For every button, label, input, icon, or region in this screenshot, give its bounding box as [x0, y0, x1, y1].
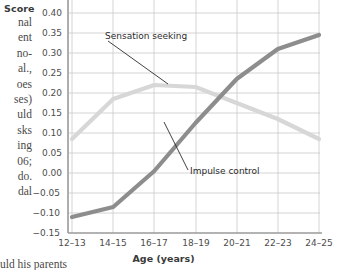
x-axis-tick-label: 18–19 — [173, 238, 219, 248]
x-axis-tick-label: 12–13 — [49, 238, 95, 248]
x-axis-tick-label: 16–17 — [131, 238, 177, 248]
horizontal-gridlines — [68, 13, 320, 213]
x-axis-tick-label: 20–21 — [214, 238, 260, 248]
leader-line-impulse-control — [164, 122, 188, 170]
annotation-sensation-seeking: Sensation seeking — [105, 31, 187, 41]
x-axis-tick-label: 24–25 — [296, 238, 337, 248]
x-axis-tick-label: 14–15 — [90, 238, 136, 248]
x-axis-tick-label: 22–23 — [255, 238, 301, 248]
leader-line-sensation-seeking — [108, 41, 168, 84]
annotation-impulse-control: Impulse control — [190, 166, 260, 176]
x-axis-title: Age (years) — [0, 253, 327, 264]
series-line-impulse-control — [72, 35, 319, 217]
